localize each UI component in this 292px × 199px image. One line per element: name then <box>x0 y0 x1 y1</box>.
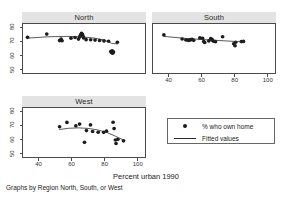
y-tick-mark <box>20 125 23 126</box>
y-tick-label: 80 <box>9 21 17 33</box>
y-tick-label: 60 <box>9 134 17 146</box>
panel-south: South <box>152 12 276 74</box>
panel-north-plot-area <box>22 23 146 74</box>
y-tick-mark <box>20 139 23 140</box>
y-tick-mark <box>20 55 23 56</box>
y-tick-mark <box>20 111 23 112</box>
x-tick-label: 40 <box>160 77 178 83</box>
panel-west-svg <box>23 108 145 157</box>
y-tick-label: 70 <box>9 119 17 131</box>
x-tick-label: 100 <box>259 77 277 83</box>
y-tick-label: 60 <box>9 50 17 62</box>
x-axis-title: Percent urban 1990 <box>0 172 292 181</box>
y-tick-mark <box>20 69 23 70</box>
panel-south-title: South <box>152 12 276 23</box>
panel-north: North <box>22 12 146 74</box>
panel-west-title: West <box>22 96 146 107</box>
y-tick-label: 50 <box>9 64 17 76</box>
y-tick-mark <box>20 27 23 28</box>
y-tick-label: 50 <box>9 148 17 160</box>
y-tick-label: 70 <box>9 35 17 47</box>
panel-north-svg <box>23 24 145 73</box>
x-tick-label: 40 <box>30 161 48 167</box>
legend-line-label: Fitted values <box>202 135 239 142</box>
y-tick-mark <box>20 41 23 42</box>
legend-row-marker: % who own home <box>168 120 274 132</box>
x-tick-label: 80 <box>226 77 244 83</box>
stata-graph-figure: North South West 50607080406080100506070… <box>0 0 292 199</box>
y-tick-label: 80 <box>9 105 17 117</box>
panel-west: West <box>22 96 146 158</box>
panel-west-plot-area <box>22 107 146 158</box>
x-tick-label: 80 <box>96 161 114 167</box>
legend: % who own home Fitted values <box>167 118 275 144</box>
legend-row-line: Fitted values <box>168 132 274 144</box>
legend-marker-label: % who own home <box>202 123 253 130</box>
panel-south-svg <box>153 24 275 73</box>
x-tick-label: 100 <box>129 161 147 167</box>
graph-note: Graphs by Region North, South, or West <box>6 184 123 191</box>
x-tick-label: 60 <box>63 161 81 167</box>
x-tick-label: 60 <box>193 77 211 83</box>
legend-line-swatch <box>168 138 202 139</box>
legend-marker-swatch <box>168 124 202 128</box>
panel-north-title: North <box>22 12 146 23</box>
y-tick-mark <box>20 153 23 154</box>
panel-south-plot-area <box>152 23 276 74</box>
